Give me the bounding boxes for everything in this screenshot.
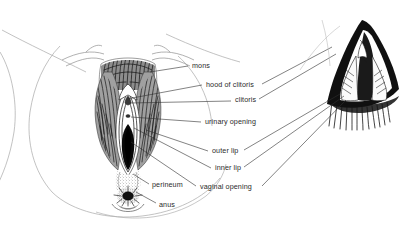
label-mons: mons bbox=[192, 62, 210, 69]
leader-detail-hood bbox=[262, 47, 332, 84]
urinary-opening-mark bbox=[126, 115, 130, 118]
leader-detail-clitoris bbox=[259, 54, 336, 99]
label-outer-lip: outer lip bbox=[212, 147, 238, 154]
label-hood-of-clitoris: hood of clitoris bbox=[206, 81, 254, 88]
detail-close-up-view bbox=[327, 20, 399, 130]
label-clitoris: clitoris bbox=[235, 96, 256, 103]
label-vaginal-opening: vaginal opening bbox=[200, 183, 252, 190]
leader-detail-inner-lip bbox=[244, 96, 344, 167]
label-urinary-opening: urinary opening bbox=[205, 118, 256, 125]
diagram-page: mons hood of clitoris clitoris urinary o… bbox=[0, 0, 409, 232]
leader-anus bbox=[136, 192, 156, 203]
label-inner-lip: inner lip bbox=[215, 164, 241, 171]
leader-detail-vaginal bbox=[262, 100, 346, 186]
label-perineum: perineum bbox=[152, 181, 183, 188]
label-anus: anus bbox=[159, 201, 175, 208]
detail-leader-lines bbox=[244, 47, 346, 186]
anatomical-figure bbox=[0, 0, 409, 232]
detail-construction-lines bbox=[300, 20, 340, 70]
leader-detail-outer-lip bbox=[244, 94, 340, 150]
